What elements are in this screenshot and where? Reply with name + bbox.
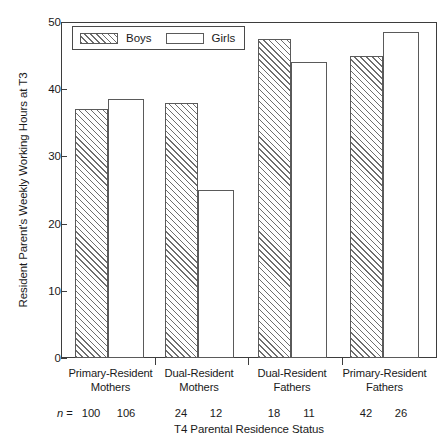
bar-boys-dual-resident-mothers[interactable] <box>165 103 198 358</box>
legend-label-girls: Girls <box>212 32 236 45</box>
x-group-label-1: Dual-Resident Mothers <box>148 367 250 394</box>
empty-swatch-icon <box>166 33 204 44</box>
n-value-girls-primary-resident-fathers: 26 <box>386 407 416 420</box>
bar-boys-primary-resident-mothers[interactable] <box>75 109 108 358</box>
x-group-label-1-line1: Dual-Resident <box>148 367 250 381</box>
x-group-label-3-line2: Fathers <box>322 381 443 395</box>
n-italic: n <box>57 407 63 419</box>
bar-chart: Resident Parent's Weekly Working Hours a… <box>0 0 443 444</box>
n-value-boys-primary-resident-mothers: 100 <box>76 407 106 420</box>
bar-girls-dual-resident-mothers[interactable] <box>198 190 234 358</box>
bars-layer <box>0 0 443 358</box>
bar-girls-dual-resident-fathers[interactable] <box>291 62 327 358</box>
legend: Boys Girls <box>72 26 245 50</box>
bar-girls-primary-resident-mothers[interactable] <box>108 99 144 358</box>
x-group-label-3: Primary-Resident Fathers <box>322 367 443 394</box>
bar-boys-dual-resident-fathers[interactable] <box>258 39 291 358</box>
x-axis-title: T4 Parental Residence Status <box>61 423 437 435</box>
n-value-girls-dual-resident-mothers: 12 <box>201 407 231 420</box>
hatched-swatch-icon <box>80 33 118 44</box>
n-value-girls-primary-resident-mothers: 106 <box>111 407 141 420</box>
n-value-boys-dual-resident-fathers: 18 <box>259 407 289 420</box>
x-tick-mark-2 <box>248 358 249 365</box>
x-tick-mark-1 <box>155 358 156 365</box>
n-value-boys-primary-resident-fathers: 42 <box>351 407 381 420</box>
bar-boys-primary-resident-fathers[interactable] <box>350 56 383 358</box>
legend-label-boys: Boys <box>126 32 152 45</box>
n-prefix-label: n = <box>57 407 73 420</box>
n-value-girls-dual-resident-fathers: 11 <box>294 407 324 420</box>
y-tick-mark-0 <box>61 358 67 359</box>
x-tick-mark-3 <box>342 358 343 365</box>
bar-girls-primary-resident-fathers[interactable] <box>383 32 419 358</box>
x-group-label-3-line1: Primary-Resident <box>322 367 443 381</box>
n-value-boys-dual-resident-mothers: 24 <box>166 407 196 420</box>
x-group-label-1-line2: Mothers <box>148 381 250 395</box>
